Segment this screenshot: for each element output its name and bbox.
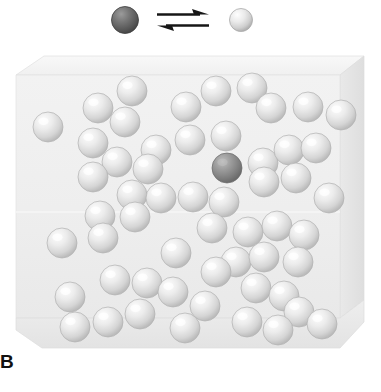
particle-highlight: [331, 105, 341, 113]
particle-body: [301, 133, 331, 163]
particle-highlight: [52, 233, 62, 241]
particle-highlight: [289, 302, 299, 310]
particle-highlight: [286, 168, 296, 176]
particle-light: [326, 100, 356, 130]
particle-highlight: [267, 216, 277, 224]
particle-highlight: [138, 159, 148, 167]
particle-body: [249, 167, 279, 197]
particle-light: [55, 282, 85, 312]
particle-body: [307, 309, 337, 339]
particle-light: [274, 135, 304, 165]
equilibrium-arrow-icon: [157, 9, 209, 31]
particle-light: [211, 121, 241, 151]
particle-body: [132, 268, 162, 298]
particle-highlight: [319, 188, 329, 196]
particle-light: [132, 268, 162, 298]
particle-body: [233, 217, 263, 247]
particle-highlight: [107, 152, 117, 160]
particle-highlight: [279, 140, 289, 148]
particle-highlight: [122, 185, 132, 193]
particle-light: [120, 202, 150, 232]
particle-light: [60, 312, 90, 342]
particle-highlight: [130, 304, 140, 312]
particle-highlight: [98, 312, 108, 320]
particle-light: [263, 315, 293, 345]
particle-light: [289, 220, 319, 250]
particle-body: [232, 307, 262, 337]
particle-body: [175, 125, 205, 155]
particle-body: [83, 93, 113, 123]
particle-dark: [212, 153, 242, 183]
particle-light: [283, 247, 313, 277]
particle-light: [232, 307, 262, 337]
particle-light: [175, 125, 205, 155]
equilibrium-legend: [112, 7, 253, 34]
particle-highlight: [115, 112, 125, 120]
particle-highlight: [125, 207, 135, 215]
particle-highlight: [176, 97, 186, 105]
particle-light: [171, 92, 201, 122]
particle-body: [171, 92, 201, 122]
particle-light: [307, 309, 337, 339]
particle-highlight: [105, 270, 115, 278]
particle-light: [78, 128, 108, 158]
particle-light: [158, 277, 188, 307]
particle-body: [125, 299, 155, 329]
particle-highlight: [246, 278, 256, 286]
particle-body: [281, 163, 311, 193]
particle-highlight: [180, 130, 190, 138]
particle-highlight: [274, 286, 284, 294]
particle-light: [241, 273, 271, 303]
particle-light: [125, 299, 155, 329]
particle-highlight: [237, 312, 247, 320]
particle-highlight: [238, 222, 248, 230]
particle-light: [133, 154, 163, 184]
particle-light: [83, 93, 113, 123]
particle-highlight: [151, 188, 161, 196]
particle-light: [201, 76, 231, 106]
particle-body: [256, 93, 286, 123]
particle-highlight: [254, 247, 264, 255]
particle-body: [78, 128, 108, 158]
particle-body: [249, 242, 279, 272]
particle-body: [201, 257, 231, 287]
particle-light: [33, 112, 63, 142]
particle-highlight: [166, 243, 176, 251]
particle-body: [88, 223, 118, 253]
particle-light: [88, 223, 118, 253]
particle-body: [110, 107, 140, 137]
particle-body: [241, 273, 271, 303]
particle-body: [289, 220, 319, 250]
particle-body: [274, 135, 304, 165]
particle-highlight: [83, 167, 93, 175]
particle-highlight: [183, 187, 193, 195]
particle-light: [293, 92, 323, 122]
particle-highlight: [88, 98, 98, 106]
particle-highlight: [253, 153, 263, 161]
particle-body: [283, 247, 313, 277]
particle-highlight: [268, 320, 278, 328]
particle-body: [133, 154, 163, 184]
particle-highlight: [175, 318, 185, 326]
particle-body: [146, 183, 176, 213]
particle-body: [314, 183, 344, 213]
particle-highlight: [90, 206, 100, 214]
particle-highlight: [93, 228, 103, 236]
particle-highlight: [298, 97, 308, 105]
particle-body: [326, 100, 356, 130]
particle-body: [47, 228, 77, 258]
particle-highlight: [306, 138, 316, 146]
particle-highlight: [146, 140, 156, 148]
particle-light: [209, 187, 239, 217]
particle-body: [212, 153, 242, 183]
particle-light: [201, 257, 231, 287]
particle-highlight: [214, 192, 224, 200]
legend-dark-sphere: [112, 7, 139, 34]
particle-body: [78, 162, 108, 192]
particle-highlight: [312, 314, 322, 322]
particle-body: [262, 211, 292, 241]
particle-light: [281, 163, 311, 193]
particle-light: [249, 242, 279, 272]
particle-body: [117, 76, 147, 106]
particle-light: [170, 313, 200, 343]
